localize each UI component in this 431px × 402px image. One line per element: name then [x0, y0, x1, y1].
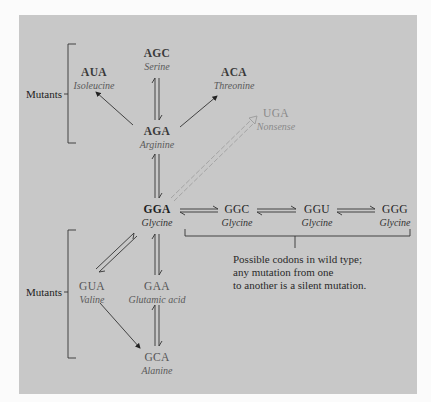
amino-acid-glycine: Glycine: [301, 218, 332, 228]
amino-acid-valine: Valine: [79, 295, 105, 305]
node-uga: UGA Nonsense: [257, 108, 295, 132]
amino-acid-threonine: Threonine: [214, 81, 255, 91]
amino-acid-serine: Serine: [144, 62, 170, 72]
node-aua: AUA Isoleucine: [73, 67, 114, 91]
amino-acid-alanine: Alanine: [141, 366, 172, 376]
codon-gca: GCA: [141, 352, 172, 364]
mutants-label-top: Mutants: [26, 88, 62, 100]
codon-ggu: GGU: [301, 204, 332, 216]
codon-gua: GUA: [79, 281, 105, 293]
amino-acid-glycine: Glycine: [141, 218, 172, 228]
node-gaa: GAA Glutamic acid: [129, 281, 186, 305]
codon-ggc: GGC: [221, 204, 252, 216]
mutants-bracket-top: [68, 44, 76, 143]
node-aga: AGA Arginine: [140, 126, 175, 150]
amino-acid-glutamic-acid: Glutamic acid: [129, 295, 186, 305]
note-line-3: to another is a silent mutation.: [233, 279, 366, 292]
note-line-1: Possible codons in wild type;: [233, 253, 366, 266]
codon-agc: AGC: [144, 48, 170, 60]
node-aca: ACA Threonine: [214, 67, 255, 91]
node-ggc: GGC Glycine: [221, 204, 252, 228]
node-ggg: GGG Glycine: [379, 204, 410, 228]
node-ggu: GGU Glycine: [301, 204, 332, 228]
mutants-label-bottom: Mutants: [26, 286, 62, 298]
node-gca: GCA Alanine: [141, 352, 172, 376]
codon-ggg: GGG: [379, 204, 410, 216]
note-line-2: any mutation from one: [233, 266, 366, 279]
codon-aua: AUA: [73, 67, 114, 79]
node-agc: AGC Serine: [144, 48, 170, 72]
codon-aca: ACA: [214, 67, 255, 79]
node-gua: GUA Valine: [79, 281, 105, 305]
amino-acid-arginine: Arginine: [140, 140, 175, 150]
amino-acid-isoleucine: Isoleucine: [73, 81, 114, 91]
codon-gaa: GAA: [129, 281, 186, 293]
codon-uga: UGA: [257, 108, 295, 120]
codon-aga: AGA: [140, 126, 175, 138]
silent-mutation-note: Possible codons in wild type; any mutati…: [233, 253, 366, 292]
wildtype-bracket: [185, 229, 410, 236]
amino-acid-nonsense: Nonsense: [257, 122, 295, 132]
node-gga: GGA Glycine: [141, 204, 172, 228]
amino-acid-glycine: Glycine: [379, 218, 410, 228]
mutants-bracket-bottom: [68, 230, 76, 358]
arrows-layer: [0, 0, 431, 402]
amino-acid-glycine: Glycine: [221, 218, 252, 228]
codon-gga: GGA: [141, 204, 172, 216]
